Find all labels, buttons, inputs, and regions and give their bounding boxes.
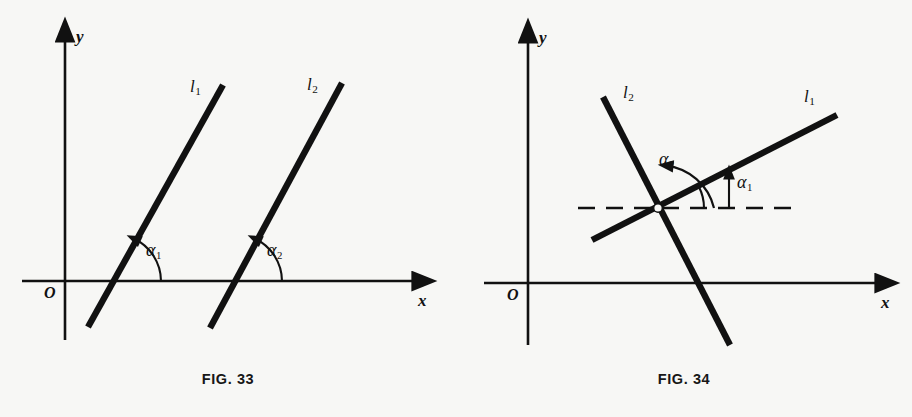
line-l1 <box>88 85 223 327</box>
angle-label-alpha2: α2 <box>267 241 282 261</box>
line-label-l2: l2 <box>623 84 634 103</box>
line-l2 <box>603 97 730 345</box>
line-label-l2-subscript: 2 <box>628 91 634 103</box>
angle-label-alpha2: α2 <box>659 150 674 170</box>
line-label-l2: l2 <box>307 76 318 95</box>
line-label-l1: l1 <box>804 88 815 107</box>
figure-34-panel: y x O l2 l1 α2 α1 FIG. 34 <box>456 0 912 417</box>
angle-label-alpha1-subscript: 1 <box>746 181 752 193</box>
angle-label-alpha1-subscript: 1 <box>155 249 161 261</box>
line-l1 <box>592 115 837 240</box>
figure-page: y x O l1 l2 α1 α2 FIG. 33 <box>0 0 912 417</box>
origin-label: O <box>44 285 56 301</box>
angle-arc-alpha1 <box>699 187 704 208</box>
y-axis-label: y <box>539 29 547 46</box>
y-axis-label: y <box>76 28 84 45</box>
angle-label-alpha2-subscript: 2 <box>276 249 282 261</box>
figure-34-drawing <box>456 0 912 417</box>
line-label-l2-subscript: 2 <box>312 83 318 95</box>
angle-label-alpha2-subscript: 2 <box>668 158 674 170</box>
angle-label-alpha1: α1 <box>146 241 161 261</box>
x-axis-label: x <box>881 294 890 311</box>
line-label-l1: l1 <box>190 78 201 97</box>
line-label-l1-subscript: 1 <box>195 85 201 97</box>
line-l2 <box>210 83 342 328</box>
angle-label-alpha1: α1 <box>737 173 752 193</box>
x-axis-label: x <box>418 292 427 309</box>
figure-33-drawing <box>0 0 456 417</box>
origin-label: O <box>507 287 519 303</box>
figure-34-caption: FIG. 34 <box>456 371 912 387</box>
figure-33-panel: y x O l1 l2 α1 α2 FIG. 33 <box>0 0 456 417</box>
intersection-point <box>654 204 663 213</box>
line-label-l1-subscript: 1 <box>809 95 815 107</box>
figure-33-caption: FIG. 33 <box>0 371 456 387</box>
